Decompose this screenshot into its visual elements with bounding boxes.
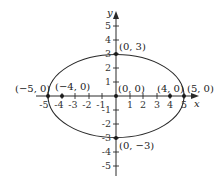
y-tick-label: -2 (102, 118, 111, 129)
point-0-3 (114, 52, 118, 56)
x-tick-label: -3 (68, 99, 77, 110)
x-axis-label: x (194, 98, 200, 109)
ellipse-diagram: -5 -4 -3 -2 -1 1 2 3 4 5 5 4 3 2 1 -1 -2… (0, 0, 219, 187)
y-tick-label: -4 (102, 146, 111, 157)
point-0-0 (114, 94, 118, 98)
x-tick-label: -5 (39, 99, 48, 110)
x-tick-label: 4 (167, 99, 173, 110)
point-label: (5, 0) (187, 83, 214, 94)
point-4-0 (168, 94, 172, 98)
y-tick-label: -1 (102, 104, 111, 115)
point-5-0 (182, 94, 186, 98)
y-tick-label: 3 (105, 48, 111, 59)
y-axis-label: y (106, 7, 113, 18)
point-label: (−5, 0) (15, 83, 50, 94)
point-0-neg3 (114, 136, 118, 140)
x-tick-label: 1 (127, 99, 133, 110)
point-label: (4, 0) (157, 83, 184, 94)
point-neg4-0 (60, 94, 64, 98)
y-tick-label: 2 (105, 62, 111, 73)
x-tick-label: -4 (54, 99, 63, 110)
x-tick-label: -2 (82, 99, 91, 110)
y-tick-label: 1 (105, 76, 111, 87)
y-tick-label: -3 (102, 132, 111, 143)
point-neg5-0 (46, 94, 50, 98)
coordinate-plane: -5 -4 -3 -2 -1 1 2 3 4 5 5 4 3 2 1 -1 -2… (0, 0, 219, 187)
y-tick-label: 4 (105, 34, 111, 45)
point-label: (0, −3) (119, 140, 154, 151)
y-tick-label: 5 (105, 20, 111, 31)
x-tick-label: 3 (154, 99, 160, 110)
point-label: (−4, 0) (55, 81, 90, 92)
x-tick-label: 5 (181, 99, 187, 110)
y-axis-arrow-icon (113, 11, 119, 19)
y-tick-label: -5 (102, 160, 111, 171)
point-label: (0, 0) (118, 83, 145, 94)
x-tick-label: 2 (140, 99, 146, 110)
point-label: (0, 3) (119, 41, 146, 52)
